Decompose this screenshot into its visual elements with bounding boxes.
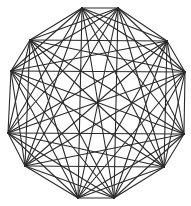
graph-edge [30,40,78,198]
graph-edge [30,40,114,198]
graph-edge [25,166,164,167]
graph-edge [114,8,118,198]
graph-edge [11,40,30,71]
graph-edge [11,71,185,72]
graph-edge [78,8,82,198]
graph-edge [118,8,184,134]
graph-edge [30,40,167,41]
graph-edge [8,133,184,134]
graph-edge [25,8,118,166]
graph-edge [11,71,78,198]
graph-edge [184,72,185,134]
complete-graph-k12-diagram [0,0,191,206]
graph-edges [8,8,185,198]
graph-edge [118,8,185,72]
graph-edge [30,40,164,167]
graph-edge [8,133,78,198]
graph-edge [164,134,184,167]
